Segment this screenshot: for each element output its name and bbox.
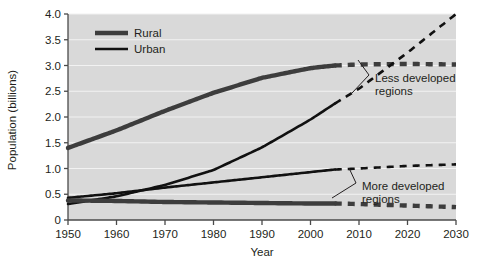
annotation-label: More developed — [362, 180, 444, 192]
y-tick-label: 0.5 — [45, 188, 61, 200]
y-tick-label: 1.5 — [45, 137, 61, 149]
legend-label-rural: Rural — [134, 27, 161, 39]
x-tick-label: 2020 — [395, 228, 421, 240]
chart-figure: 00.51.01.52.02.53.03.54.0 19501960197019… — [0, 0, 484, 263]
y-tick-label: 3.0 — [45, 60, 61, 72]
x-tick-label: 1960 — [104, 228, 130, 240]
y-tick-label: 2.5 — [45, 85, 61, 97]
x-tick-label: 1970 — [152, 228, 178, 240]
annotation-label: regions — [362, 193, 400, 205]
annotation-label: regions — [375, 85, 413, 97]
annotation-label: Less developed — [375, 72, 456, 84]
x-tick-label: 2010 — [346, 228, 372, 240]
x-tick-label: 1990 — [249, 228, 275, 240]
x-axis-title: Year — [250, 246, 273, 258]
y-tick-label: 0 — [55, 214, 61, 226]
y-tick-label: 3.5 — [45, 34, 61, 46]
x-tick-label: 1950 — [55, 228, 81, 240]
y-tick-label: 2.0 — [45, 111, 61, 123]
y-axis-title: Population (billions) — [6, 70, 18, 171]
population-line-chart: 00.51.01.52.02.53.03.54.0 19501960197019… — [0, 0, 484, 263]
y-tick-label: 4.0 — [45, 8, 61, 20]
x-tick-label: 2000 — [298, 228, 324, 240]
x-tick-label: 1980 — [201, 228, 227, 240]
y-tick-label: 1.0 — [45, 163, 61, 175]
x-tick-label: 2030 — [443, 228, 469, 240]
legend-label-urban: Urban — [134, 43, 165, 55]
